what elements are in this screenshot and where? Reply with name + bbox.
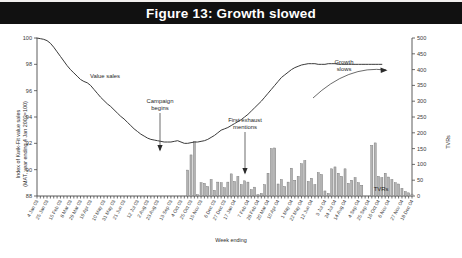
tvr-bar [351,180,353,196]
tvr-bar [284,187,286,196]
tvr-bar [240,185,242,196]
tvr-bar [307,181,309,196]
tvr-bar [290,168,292,196]
tvr-bar [357,183,359,196]
tvr-bar [361,185,363,196]
y-axis-title-line2: (MAT, year ending 4 Jan 2003=100) [22,101,28,187]
tvr-bar [287,182,289,196]
page-title: Figure 13: Growth slowed [146,6,316,21]
figure-container: Figure 13: Growth slowed 889092949698100… [0,0,462,258]
tvr-bar [247,182,249,196]
tvr-bar [391,180,393,196]
annotation-growth-slows-line2: slows [337,66,352,72]
chart-plot-area: 8890929496981000501001502002503003504004… [0,24,462,258]
tvr-bar [398,184,400,196]
tvr-bar [404,192,406,196]
tvr-bar [210,180,212,196]
tvr-bar [327,193,329,196]
tvr-bar [294,180,296,196]
annotation-value-sales: Value sales [90,73,120,79]
tvr-bar [354,178,356,196]
tvr-bar [331,169,333,196]
annotation-campaign-begins: Campaign [147,98,174,104]
tvr-bar [220,183,222,196]
y2-tick-label: 50 [417,177,423,183]
tvr-bar [341,176,343,196]
y2-tick-label: 400 [417,67,426,73]
tvr-bar [384,173,386,196]
axis-frame [37,38,412,196]
tvr-bar [193,142,195,196]
figure-title-bar: Figure 13: Growth slowed [0,2,462,24]
tvr-bar [297,176,299,196]
y2-tick-label: 350 [417,82,426,88]
tvr-bar [257,195,259,196]
tvr-bar [270,149,272,196]
y-tick-label: 88 [26,193,32,199]
tvr-bar [234,181,236,196]
tvr-bar [267,173,269,196]
y2-tick-label: 300 [417,98,426,104]
tvr-bar [223,188,225,196]
y2-tick-label: 0 [417,193,420,199]
y2-tick-label: 150 [417,146,426,152]
tvr-bar [250,190,252,196]
tvr-bar [304,161,306,196]
chart-annotations: Value salesCampaignbeginsFirst exhaustme… [90,59,388,192]
y-axis-title-line1: Index of Kwik-Fit value sales [15,110,21,179]
y-tick-label: 96 [26,88,32,94]
tvr-bar [317,173,319,196]
tvr-bar [217,182,219,196]
chart-axes: 8890929496981000501001502002503003504004… [23,35,427,199]
tvr-bar [321,175,323,196]
tvr-bar [300,164,302,196]
tvr-bar [244,181,246,196]
y2-tick-label: 200 [417,130,426,136]
tvr-bar [314,185,316,196]
tvr-bar [227,182,229,196]
growth-slows-arrow [313,69,386,98]
tvr-bar [213,190,215,196]
tvr-bar [334,167,336,196]
tvr-bar [230,174,232,196]
x-tick-labels: 4 Jan 0325 Jan 0315 Feb 038 Mar 0329 Mar… [26,199,414,222]
tvr-bar [200,183,202,196]
annotation-campaign-begins-line2: begins [151,105,168,111]
annotation-growth-slows: Growth [335,59,354,65]
tvr-bar [347,183,349,196]
tvr-bar [203,183,205,196]
growth-slows-arrowhead [381,67,388,73]
y2-tick-label: 250 [417,114,426,120]
tvr-bar [190,155,192,196]
annotation-tvrs: TVRs [374,186,389,192]
y-tick-label: 98 [26,61,32,67]
tvr-bar [411,194,413,196]
tvr-bar [311,178,313,196]
y-tick-label: 100 [23,35,32,41]
value-sales-line-series [37,38,382,143]
tvr-bar [394,183,396,196]
campaign-begins-arrowhead [157,145,162,152]
tvr-bar [280,180,282,196]
growth-slowed-chart: 8890929496981000501001502002503003504004… [0,24,462,258]
tvr-bar [260,193,262,196]
tvr-bar [324,191,326,196]
tvr-bar [344,169,346,196]
annotation-first-exhaust-line2: mentions [233,124,257,130]
tvr-bar [237,176,239,196]
tvr-bar [277,184,279,196]
tvr-bar [274,148,276,196]
y2-tick-label: 450 [417,51,426,57]
annotation-first-exhaust: First exhaust [228,117,262,123]
tvr-bar [401,188,403,196]
value-sales-line [37,38,382,143]
first-exhaust-arrowhead [242,168,247,175]
tvr-bar [187,170,189,196]
tvr-bar [408,193,410,196]
tvr-bar [264,185,266,196]
tvr-bar [371,145,373,196]
tvr-bar [254,187,256,196]
tvr-bar [197,195,199,196]
x-tick-label: 13 Sep 03 [158,199,173,221]
y2-axis-title: TVRs [445,135,451,149]
